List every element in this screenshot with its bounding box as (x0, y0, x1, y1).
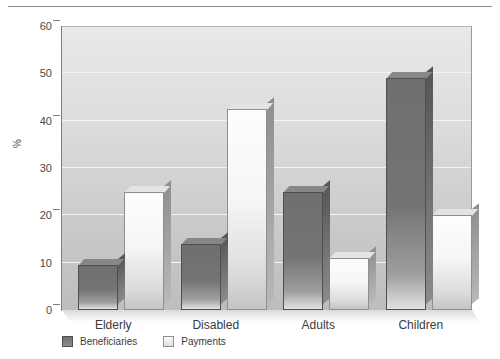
bar-side-face (164, 180, 171, 304)
legend: BeneficiariesPayments (62, 336, 252, 347)
bar-group-children (370, 26, 473, 310)
bar-side-face (267, 97, 274, 304)
bar-front-face (283, 192, 323, 310)
bar-adults-beneficiaries (283, 192, 323, 310)
bar-disabled-payments (227, 109, 267, 310)
legend-item-beneficiaries: Beneficiaries (62, 336, 137, 347)
x-tick-label-children: Children (361, 318, 481, 332)
y-tick-label-40: 40 (28, 115, 52, 127)
bar-front-face (227, 109, 267, 310)
bar-disabled-beneficiaries (181, 244, 221, 310)
y-tick-label-10: 10 (28, 257, 52, 269)
bar-front-face (432, 215, 472, 310)
bar-elderly-beneficiaries (78, 265, 118, 310)
y-tick-mark-40 (53, 209, 60, 210)
top-divider-rule (8, 6, 492, 7)
bar-group-elderly (62, 26, 165, 310)
legend-swatch-beneficiaries (62, 336, 73, 347)
y-tick-label-20: 20 (28, 209, 52, 221)
y-tick-label-50: 50 (28, 67, 52, 79)
bar-front-face (124, 192, 164, 310)
y-tick-label-30: 30 (28, 162, 52, 174)
bar-children-payments (432, 215, 472, 310)
bar-children-beneficiaries (386, 78, 426, 310)
legend-label-beneficiaries: Beneficiaries (80, 336, 137, 347)
legend-swatch-payments (163, 336, 174, 347)
y-tick-mark-30 (53, 304, 60, 305)
bar-elderly-payments (124, 192, 164, 310)
y-tick-label-60: 60 (28, 20, 52, 32)
bar-adults-payments (329, 258, 369, 310)
y-axis-tick-labels: 0102030405060 (28, 26, 52, 311)
bar-group-adults (267, 26, 370, 310)
bar-front-face (386, 78, 426, 310)
legend-label-payments: Payments (181, 336, 225, 347)
bar-side-face (323, 180, 330, 304)
bar-front-face (329, 258, 369, 310)
legend-item-payments: Payments (163, 336, 225, 347)
bar-group-disabled (165, 26, 268, 310)
y-tick-label-0: 0 (28, 304, 52, 316)
y-axis-title: % (12, 139, 23, 148)
bar-series-container (62, 26, 472, 310)
bar-side-face (426, 66, 433, 304)
y-tick-mark-60 (53, 20, 60, 21)
y-tick-mark-50 (53, 115, 60, 116)
bar-front-face (78, 265, 118, 310)
bar-front-face (181, 244, 221, 310)
chart-figure: 0102030405060 % ElderlyDisabledAdultsChi… (0, 0, 500, 359)
bar-side-face (472, 203, 479, 304)
